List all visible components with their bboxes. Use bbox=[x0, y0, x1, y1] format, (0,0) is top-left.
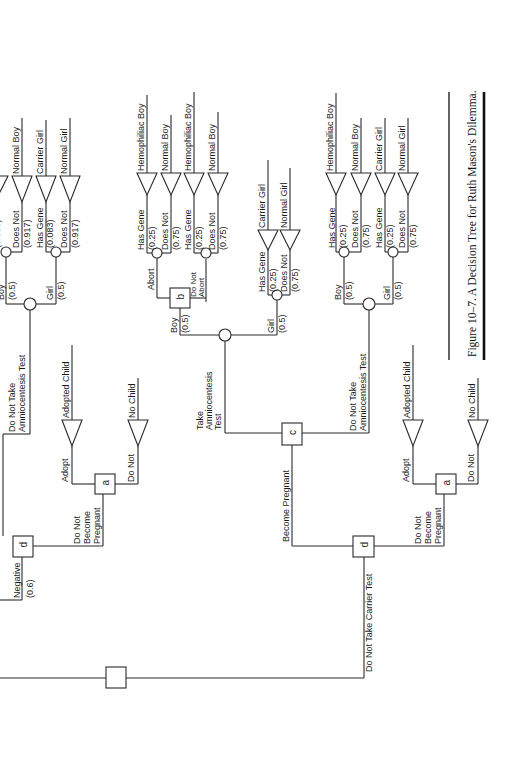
node-letter-a-top: a bbox=[100, 480, 111, 486]
label-nt-boy-does-not-prob: (0.75) bbox=[361, 224, 371, 248]
label-girl-prob-top: (0.5) bbox=[56, 281, 66, 300]
label-noabort-has-gene-prob: (0.25) bbox=[194, 226, 204, 250]
label-nt-girl-has-gene-prob: (0.25) bbox=[385, 224, 395, 248]
label-nt-girl-has-gene: Has Gene bbox=[374, 207, 384, 248]
label-adopt-bottom: Adopt bbox=[401, 458, 411, 482]
label-do-not-bottom: Do Not bbox=[466, 453, 476, 482]
label-nt-girl-does-not: Does Not bbox=[397, 210, 407, 248]
label-become-pregnant: Become Pregnant bbox=[281, 469, 291, 542]
label-dnt-amnio-2-bottom: Amniocentesis Test bbox=[358, 353, 368, 431]
terminal-normal-girl-nt bbox=[398, 173, 418, 195]
node-letter-d-top: d bbox=[18, 542, 29, 548]
terminal-carrier-girl-take bbox=[258, 230, 278, 250]
label-dnbp-3-top: Pregnant bbox=[92, 507, 102, 544]
node-letter-b: b bbox=[175, 294, 186, 300]
label-dnbp-3-bottom: Pregnant bbox=[433, 507, 443, 544]
outcome-normal-boy-2: Normal Boy bbox=[207, 123, 217, 171]
chance-node-boy-gene-top bbox=[1, 247, 11, 257]
label-dnbp-2-top: Become bbox=[82, 511, 92, 544]
bottom-branch: d Become Pregnant Do Not Become Pregnant… bbox=[136, 92, 488, 557]
outcome-no-child-bottom: No Child bbox=[467, 383, 477, 418]
label-boy-prob-take: (0.5) bbox=[180, 314, 190, 333]
label-boy-does-not-prob-top: (0.917) bbox=[22, 219, 32, 248]
chance-node-sex-take bbox=[219, 329, 231, 341]
label-nt-girl-does-not-prob: (0.75) bbox=[408, 224, 418, 248]
label-girl-has-gene-prob-top: (0.083) bbox=[45, 219, 55, 248]
root-trunk: Do Not Take Carrier Test bbox=[0, 556, 374, 688]
outcome-normal-girl-take: Normal Girl bbox=[279, 182, 289, 228]
outcome-hemophiliac-boy-2: Hemophiliac Boy bbox=[183, 103, 193, 171]
terminal-carrier-girl-nt bbox=[375, 173, 395, 195]
outcome-carrier-girl-take: Carrier Girl bbox=[257, 184, 267, 228]
label-dnt-amnio-1-bottom: Do Not Take bbox=[348, 382, 358, 431]
label-nt-boy-has-gene-prob: (0.25) bbox=[338, 224, 348, 248]
label-take-girl-has-gene: Has Gene bbox=[257, 251, 267, 292]
label-take-girl-does-not: Does Not bbox=[279, 254, 289, 292]
chance-node-sex-top bbox=[24, 298, 36, 310]
outcome-adopted-child-top: Adopted Child bbox=[61, 361, 71, 418]
label-take-girl-does-not-prob: (0.75) bbox=[290, 268, 300, 292]
label-dnbp-1-top: Do Not bbox=[72, 515, 82, 544]
label-girl-has-gene-top: Has Gene bbox=[35, 207, 45, 248]
label-noabort-does-not-prob: (0.75) bbox=[218, 226, 228, 250]
label-abort-has-gene: Has Gene bbox=[136, 209, 146, 250]
figure-caption: Figure 10–7. A Decision Tree for Ruth Ma… bbox=[466, 90, 479, 357]
label-girl-nt: Girl bbox=[382, 286, 392, 300]
terminal-adopted-child-top bbox=[62, 420, 82, 446]
terminal-normal-boy-top bbox=[12, 176, 32, 202]
label-negative: Negative bbox=[12, 562, 22, 598]
node-letter-a-bottom: a bbox=[441, 480, 452, 486]
terminal-carrier-girl-top bbox=[36, 176, 56, 202]
label-boy-has-gene-prob-top: (0.083) bbox=[0, 219, 2, 248]
terminal-partial-top bbox=[0, 176, 8, 196]
label-boy-top: Boy bbox=[0, 284, 6, 300]
label-negative-prob: (0.6) bbox=[25, 579, 35, 598]
label-do-not-abort-2: Abort bbox=[197, 277, 206, 297]
outcome-normal-boy-nt: Normal Boy bbox=[350, 123, 360, 171]
label-girl-prob-take: (0.5) bbox=[277, 314, 287, 333]
terminal-no-child-bottom bbox=[468, 420, 488, 446]
outcome-hemophiliac-boy-1: Hemophiliac Boy bbox=[136, 103, 146, 171]
outcome-normal-boy-top: Normal Boy bbox=[11, 126, 21, 174]
figure-caption-block: Figure 10–7. A Decision Tree for Ruth Ma… bbox=[449, 90, 484, 360]
label-adopt-top: Adopt bbox=[60, 458, 70, 482]
terminal-normal-girl-top bbox=[60, 176, 80, 202]
label-abort-does-not-prob: (0.75) bbox=[171, 226, 181, 250]
root-decision-node bbox=[106, 667, 126, 688]
label-do-not-top: Do Not bbox=[126, 453, 136, 482]
terminal-hemophiliac-boy-2 bbox=[184, 173, 204, 195]
terminal-hemophiliac-boy-nt bbox=[326, 173, 346, 195]
label-dnbp-1-bottom: Do Not bbox=[413, 515, 423, 544]
terminal-hemophiliac-boy-1 bbox=[137, 173, 157, 195]
decision-tree-diagram: Do Not Take Carrier Test Negative (0.6) … bbox=[0, 0, 521, 762]
label-noabort-has-gene: Has Gene bbox=[183, 209, 193, 250]
label-girl-top: Girl bbox=[45, 286, 55, 300]
chance-node-sex-nt bbox=[363, 298, 375, 310]
outcome-adopted-child-bottom: Adopted Child bbox=[402, 361, 412, 418]
node-letter-c: c bbox=[287, 430, 298, 435]
outcome-carrier-girl-top: Carrier Girl bbox=[35, 130, 45, 174]
terminal-normal-girl-take bbox=[280, 230, 300, 250]
label-abort: Abort bbox=[146, 268, 156, 290]
label-boy-prob-nt: (0.5) bbox=[344, 281, 354, 300]
label-noabort-does-not: Does Not bbox=[207, 212, 217, 250]
label-boy-nt: Boy bbox=[333, 284, 343, 300]
outcome-normal-boy-1: Normal Boy bbox=[160, 123, 170, 171]
label-take-amnio-3: Test bbox=[213, 413, 223, 430]
terminal-normal-boy-nt bbox=[351, 173, 371, 195]
label-dnt-amnio-1-top: Do Not Take bbox=[7, 383, 17, 432]
label-boy-prob-top: (0.5) bbox=[7, 281, 17, 300]
label-dnt-amnio-2-top: Amniocentesis Test bbox=[17, 354, 27, 432]
label-girl-does-not-prob-top: (0.917) bbox=[70, 219, 80, 248]
label-boy-take: Boy bbox=[169, 317, 179, 333]
terminal-no-child-top bbox=[128, 420, 148, 446]
outcome-normal-girl-top: Normal Girl bbox=[59, 128, 69, 174]
node-letter-d-bottom: d bbox=[359, 542, 370, 548]
label-take-girl-has-gene-prob: (0.25) bbox=[268, 268, 278, 292]
terminal-normal-boy-2 bbox=[208, 173, 228, 195]
label-boy-does-not-top: Does Not bbox=[11, 210, 21, 248]
label-girl-does-not-top: Does Not bbox=[59, 210, 69, 248]
label-girl-prob-nt: (0.5) bbox=[393, 281, 403, 300]
terminal-normal-boy-1 bbox=[161, 173, 181, 195]
label-abort-has-gene-prob: (0.25) bbox=[147, 226, 157, 250]
